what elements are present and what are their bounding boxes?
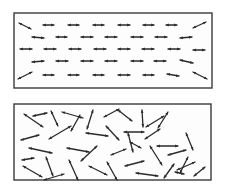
panel-frame bbox=[14, 13, 212, 88]
ordered-panel bbox=[14, 13, 212, 88]
disordered-panel bbox=[14, 104, 211, 181]
diagram-canvas bbox=[0, 0, 225, 194]
arrow-diagram bbox=[0, 0, 225, 194]
